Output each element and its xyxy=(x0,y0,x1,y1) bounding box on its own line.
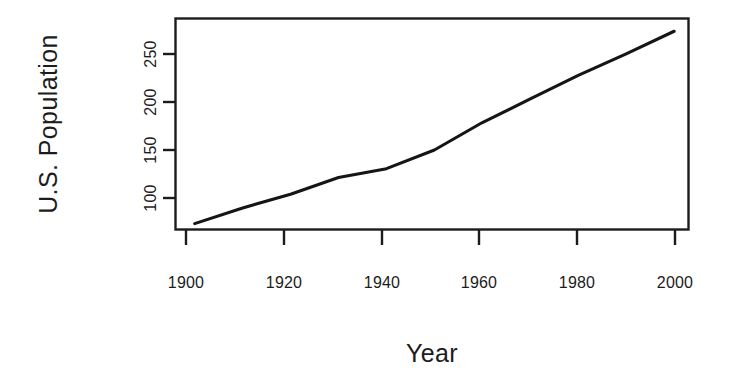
line-chart-svg: 250 200 150 100 1900 1920 1940 1960 1980… xyxy=(0,0,734,390)
x-tick-label-2000: 2000 xyxy=(657,274,693,291)
x-tick-label-1940: 1940 xyxy=(364,274,400,291)
y-tick-label-200: 200 xyxy=(142,88,159,115)
x-axis-title: Year xyxy=(406,339,458,367)
population-line-series xyxy=(195,31,674,223)
y-tick-label-250: 250 xyxy=(142,40,159,67)
y-tick-label-150: 150 xyxy=(142,136,159,163)
x-tick-label-1980: 1980 xyxy=(559,274,595,291)
plot-frame-box xyxy=(176,19,689,230)
x-tick-label-1900: 1900 xyxy=(168,274,204,291)
y-axis-tick-labels: 250 200 150 100 xyxy=(142,40,159,211)
y-axis-ticks xyxy=(163,54,175,198)
chart-figure: 250 200 150 100 1900 1920 1940 1960 1980… xyxy=(0,0,734,390)
x-tick-label-1920: 1920 xyxy=(266,274,302,291)
y-tick-label-100: 100 xyxy=(142,184,159,211)
x-tick-label-1960: 1960 xyxy=(461,274,497,291)
y-axis-title: U.S. Population xyxy=(34,34,62,214)
x-axis-ticks xyxy=(186,230,675,245)
x-axis-tick-labels: 1900 1920 1940 1960 1980 2000 xyxy=(168,274,693,291)
